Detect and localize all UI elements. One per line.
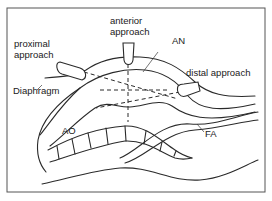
aorta-lower-wall <box>50 141 192 162</box>
an-label: AN <box>172 35 185 46</box>
anterior-approach-probe <box>123 43 134 65</box>
diagram-canvas: proximal approach anterior approach dist… <box>0 0 272 201</box>
anterior-approach-label-1: anterior <box>110 15 142 26</box>
fa-leader-line <box>197 124 204 132</box>
distal-approach-label: distal approach <box>186 67 250 78</box>
proximal-approach-label-1: proximal <box>14 38 50 49</box>
proximal-approach-probe <box>57 62 86 80</box>
ao-label: AO <box>62 125 76 136</box>
anterior-approach-label-2: approach <box>110 26 150 37</box>
lower-body-contour <box>42 160 258 184</box>
diaphragm-label: Diaphragm <box>13 85 60 96</box>
an-leader-line <box>143 52 158 72</box>
fa-label: FA <box>205 128 217 139</box>
femoral-artery-upper <box>120 112 258 158</box>
distal-approach-probe <box>177 82 200 96</box>
proximal-approach-label-2: approach <box>14 49 54 60</box>
